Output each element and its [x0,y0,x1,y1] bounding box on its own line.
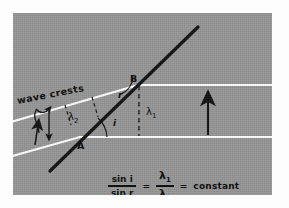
constant-label: constant [193,181,239,191]
wavelength-ratio-numerator: λ1 [156,170,174,185]
point-a-label: A [77,141,84,151]
diagram-vector-layer [13,13,272,195]
lambda-1-subscript: 1 [152,112,156,120]
sine-ratio-numerator: sin i [109,174,136,185]
diagram-panel: wave crests A B i r λ1 λ2 sin i sin r = … [13,13,272,195]
wave-crests-leader-up-arrow [35,125,38,145]
sine-ratio-fraction: sin i sin r [108,174,136,195]
lambda-2-label: λ2 [68,112,78,125]
wavelength-ratio-fraction: λ1 λ2 [156,170,174,195]
snells-law-equation: sin i sin r = λ1 λ2 = constant [108,170,239,195]
equals-sign-2: = [179,181,189,191]
lambda-1-equation-symbol: λ [159,169,166,182]
figure-container: wave crests A B i r λ1 λ2 sin i sin r = … [0,0,289,208]
lambda-2-equation-symbol: λ [159,187,166,195]
wavelength-ratio-denominator: λ2 [156,187,174,195]
angle-of-refraction-label: r [118,91,122,100]
point-b-label: B [130,74,137,84]
wave-normal-ray [50,27,198,171]
lambda2-tick-right [92,97,98,117]
lambda-1-equation-subscript: 1 [166,176,171,184]
lambda-2-subscript: 2 [74,117,78,125]
sine-ratio-denominator: sin r [108,187,136,195]
lambda-2-equation-subscript: 2 [166,194,171,195]
equals-sign-1: = [141,181,151,191]
angle-of-incidence-label: i [113,119,116,128]
lambda-1-label: λ1 [146,107,156,120]
